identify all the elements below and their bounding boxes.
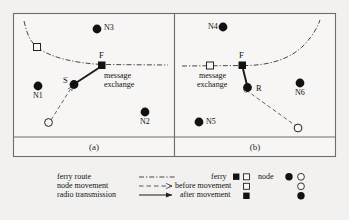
panel-b-ferry-label: F [239, 50, 244, 60]
legend-label-before-movement: before movement [175, 181, 231, 190]
panel-b-node-before-marker [294, 124, 302, 132]
panel-a-node-s-label: S [63, 75, 68, 85]
panel-b-node-r-marker [243, 83, 252, 92]
legend-symbol-ferry-filled-square [233, 174, 239, 180]
legend-label-node-movement: node movement [57, 181, 108, 190]
legend-label-ferry: ferry [211, 172, 227, 181]
panel-b-ferry-after-marker [239, 62, 247, 70]
legend-label-after-movement: after movement [180, 190, 230, 199]
panel-b-node-n4-marker [219, 23, 228, 32]
panel-b-caption: (b) [235, 142, 275, 152]
legend-symbol-ferry-hollow-square [244, 174, 250, 180]
panel-b-message-exchange-line2: exchange [197, 80, 227, 89]
legend-symbol-before-node [298, 183, 305, 190]
legend-label-radio-transmission: radio transmission [57, 190, 116, 199]
panel-b-node-n6-marker [296, 79, 305, 88]
panel-a-node-n2-label: N2 [140, 117, 150, 126]
legend-label-node: node [258, 172, 274, 181]
panel-b-node-n5-label: N5 [206, 117, 216, 126]
legend-symbol-node-hollow-circle [298, 173, 305, 180]
panel-b-node-n5-marker [195, 118, 204, 127]
panel-a-node-s-marker [70, 80, 79, 89]
panel-a-node-n1-label: N1 [33, 91, 43, 100]
panel-a-node-n1-marker [34, 82, 43, 91]
panel-b-message-exchange-line1: message [199, 71, 226, 80]
panel-b-node-n4-label: N4 [208, 22, 218, 31]
panel-b-node-r-label: R [256, 83, 262, 93]
panel-a-caption: (a) [74, 142, 114, 152]
panel-a-node-n3-marker [93, 25, 102, 34]
panel-a-message-exchange-line2: exchange [104, 80, 134, 89]
panel-b-node-n6-label: N6 [295, 88, 305, 97]
legend-label-ferry-route: ferry route [57, 172, 91, 181]
legend-symbol-after-node [297, 192, 304, 199]
legend-symbol-node-filled-circle [285, 173, 292, 180]
panel-b-ferry-before-marker [207, 62, 214, 69]
panel-a-message-exchange-line1: message [104, 71, 131, 80]
legend-symbol-after-ferry [243, 193, 249, 199]
panel-a-node-before-marker [45, 119, 53, 127]
figure-container: N3 N1 N2 S F message exchange N4 N5 N6 R… [0, 0, 349, 220]
panel-a-node-n2-marker [141, 108, 150, 117]
panel-a-ferry-before-marker [34, 44, 41, 51]
panel-a-ferry-label: F [99, 50, 104, 60]
panel-a-ferry-after-marker [98, 62, 106, 70]
panel-a-node-n3-label: N3 [104, 23, 114, 32]
legend-symbol-before-ferry [244, 183, 250, 189]
